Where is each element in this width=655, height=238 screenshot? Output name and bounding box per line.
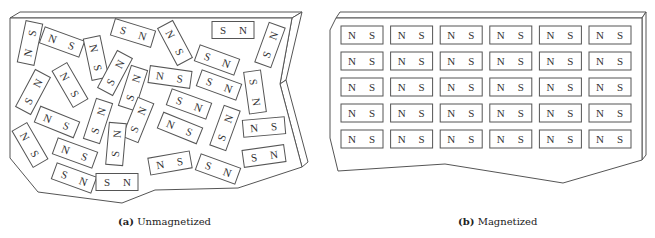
bar-magnet: NS xyxy=(440,26,482,44)
south-pole-label: S xyxy=(419,55,425,67)
south-pole-label: S xyxy=(468,133,474,145)
north-pole-label: N xyxy=(250,97,263,107)
bar-magnet: NS xyxy=(391,104,433,122)
north-pole-label: N xyxy=(596,55,604,67)
north-pole-label: N xyxy=(155,69,165,82)
bar-magnet: NS xyxy=(391,52,433,70)
south-pole-label: S xyxy=(419,81,425,93)
bar-magnet: NS xyxy=(490,26,532,44)
bar-magnet: NS xyxy=(539,52,581,70)
south-pole-label: S xyxy=(419,29,425,41)
south-pole-label: S xyxy=(270,120,277,132)
bar-magnet: NS xyxy=(490,78,532,96)
north-pole-label: N xyxy=(348,55,356,67)
south-pole-label: S xyxy=(567,107,573,119)
south-pole-label: S xyxy=(617,55,623,67)
south-pole-label: S xyxy=(567,55,573,67)
north-pole-label: N xyxy=(398,133,406,145)
bar-magnet: NS xyxy=(539,104,581,122)
bar-magnet: NS xyxy=(391,130,433,148)
bar-magnet: NS xyxy=(539,130,581,148)
north-pole-label: N xyxy=(497,29,505,41)
magnet-body xyxy=(212,22,254,39)
caption-unmagnetized: (a) Unmagnetized xyxy=(118,216,211,227)
north-pole-label: N xyxy=(348,133,356,145)
bar-magnet: NS xyxy=(440,130,482,148)
north-pole-label: N xyxy=(348,107,356,119)
south-pole-label: S xyxy=(104,176,110,188)
caption-text-b: Magnetized xyxy=(478,216,538,227)
north-pole-label: N xyxy=(546,29,554,41)
south-pole-label: S xyxy=(617,81,623,93)
north-pole-label: N xyxy=(398,81,406,93)
south-pole-label: S xyxy=(369,107,375,119)
north-pole-label: N xyxy=(497,107,505,119)
north-pole-label: N xyxy=(497,133,505,145)
bar-magnet: NS xyxy=(589,104,631,122)
bar-magnet: NS xyxy=(341,130,383,148)
south-pole-label: S xyxy=(518,107,524,119)
bar-magnet: NS xyxy=(589,52,631,70)
north-pole-label: N xyxy=(447,81,455,93)
bar-magnet: SN xyxy=(106,122,127,165)
bar-magnet: NS xyxy=(589,26,631,44)
north-pole-label: N xyxy=(250,122,259,135)
north-pole-label: N xyxy=(398,29,406,41)
north-pole-label: N xyxy=(546,133,554,145)
north-pole-label: N xyxy=(111,130,124,139)
bar-magnet: NS xyxy=(490,52,532,70)
south-pole-label: S xyxy=(617,107,623,119)
north-pole-label: N xyxy=(546,81,554,93)
south-pole-label: S xyxy=(468,107,474,119)
bar-magnet: NS xyxy=(341,78,383,96)
magnetization-diagram: NSNSNSSNNSSNSNSNSNNSSNSNNSSNSNSNNSSNSNNS… xyxy=(0,0,655,238)
north-pole-label: N xyxy=(497,81,505,93)
south-pole-label: S xyxy=(419,133,425,145)
bar-magnet: NS xyxy=(341,104,383,122)
caption-magnetized: (b) Magnetized xyxy=(458,216,537,227)
caption-text-a: Unmagnetized xyxy=(137,216,211,227)
bar-magnet: SN xyxy=(212,22,254,39)
south-pole-label: S xyxy=(518,55,524,67)
north-pole-label: N xyxy=(447,55,455,67)
north-pole-label: N xyxy=(546,107,554,119)
north-pole-label: N xyxy=(447,107,455,119)
south-pole-label: S xyxy=(518,133,524,145)
north-pole-label: N xyxy=(398,107,406,119)
north-pole-label: N xyxy=(398,55,406,67)
magnet-body xyxy=(106,122,127,165)
south-pole-label: S xyxy=(518,29,524,41)
north-pole-label: N xyxy=(269,148,279,161)
bar-magnet: NS xyxy=(440,78,482,96)
south-pole-label: S xyxy=(369,29,375,41)
south-pole-label: S xyxy=(369,133,375,145)
bar-magnet: NS xyxy=(341,52,383,70)
south-pole-label: S xyxy=(369,55,375,67)
south-pole-label: S xyxy=(468,29,474,41)
north-pole-label: N xyxy=(596,29,604,41)
bar-magnet: NS xyxy=(589,130,631,148)
north-pole-label: N xyxy=(596,107,604,119)
bar-magnet: NS xyxy=(242,117,285,138)
north-pole-label: N xyxy=(497,55,505,67)
north-pole-label: N xyxy=(596,133,604,145)
bar-magnet: NS xyxy=(391,26,433,44)
magnet-body xyxy=(242,117,285,138)
south-pole-label: S xyxy=(109,150,121,157)
north-pole-label: N xyxy=(546,55,554,67)
bar-magnet: NS xyxy=(539,78,581,96)
south-pole-label: S xyxy=(468,81,474,93)
south-pole-label: S xyxy=(617,29,623,41)
bar-magnet: NS xyxy=(341,26,383,44)
bar-magnet: NS xyxy=(490,130,532,148)
bar-magnet: NS xyxy=(589,78,631,96)
north-pole-label: N xyxy=(348,81,356,93)
bar-magnet: NS xyxy=(440,104,482,122)
bar-magnet: NS xyxy=(539,26,581,44)
north-pole-label: N xyxy=(123,176,131,188)
south-pole-label: S xyxy=(567,81,573,93)
caption-letter-a: (a) xyxy=(118,216,134,227)
south-pole-label: S xyxy=(419,107,425,119)
bar-magnet: NS xyxy=(440,52,482,70)
south-pole-label: S xyxy=(567,29,573,41)
